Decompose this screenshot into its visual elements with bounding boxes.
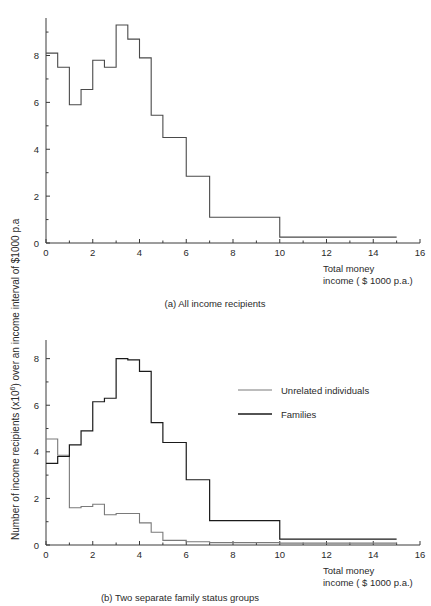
x-tick-label: 12: [321, 247, 332, 258]
x-tick-label: 4: [137, 549, 142, 560]
panel-b-xaxis-title-line1: Total money: [323, 565, 374, 576]
y-tick-label: 0: [34, 238, 39, 249]
panel-b-caption: (b) Two separate family status groups: [101, 592, 259, 603]
panel-b-x-ticks: 0246810121416: [43, 541, 425, 560]
x-tick-label: 4: [137, 247, 142, 258]
figure-container: 0246810121416 02468 Total money income (…: [0, 0, 431, 606]
svg-text:Number of income recipients (x: Number of income recipients (x106) over …: [9, 218, 21, 540]
y-tick-label: 6: [34, 97, 39, 108]
legend-label-families: Families: [281, 409, 317, 420]
panel-a-y-ticks: 02468: [34, 32, 50, 248]
x-tick-label: 14: [368, 247, 379, 258]
panel-a-axes: [46, 18, 420, 243]
panel-a-chart: 0246810121416 02468 Total money income (…: [0, 0, 431, 320]
y-axis-label-part1: Number of income recipients (x10: [10, 390, 21, 540]
x-tick-label: 8: [230, 247, 235, 258]
x-tick-label: 2: [90, 247, 95, 258]
panel-a-caption: (a) All income recipients: [165, 298, 266, 309]
panel-a-xaxis-title-line1: Total money: [323, 263, 374, 274]
y-tick-label: 4: [34, 144, 39, 155]
x-tick-label: 16: [415, 247, 426, 258]
panel-b-y-ticks: 02468: [34, 353, 50, 550]
shared-y-axis-label: Number of income recipients (x106) over …: [2, 0, 28, 606]
y-tick-label: 8: [34, 50, 39, 61]
panel-b-legend: Unrelated individuals Families: [238, 385, 369, 420]
x-tick-label: 0: [43, 549, 48, 560]
y-tick-label: 0: [34, 540, 39, 551]
y-axis-label-part2: ) over an income interval of $1000 p.a: [10, 218, 21, 386]
x-tick-label: 16: [415, 549, 426, 560]
legend-label-unrelated-individuals: Unrelated individuals: [281, 385, 369, 396]
y-tick-label: 8: [34, 353, 39, 364]
panel-a-step-line: [46, 25, 397, 237]
x-tick-label: 12: [321, 549, 332, 560]
panel-a-xaxis-title-line2: income ( $ 1000 p.a.): [323, 275, 413, 286]
panel-b-xaxis-title-line2: income ( $ 1000 p.a.): [323, 577, 413, 588]
panel-b-series-unrelated-individuals: [46, 439, 397, 543]
panel-b-chart: 0246810121416 02468 Unrelated individual…: [0, 320, 431, 606]
x-tick-label: 8: [230, 549, 235, 560]
panel-a-x-ticks: 0246810121416: [43, 239, 425, 258]
panel-b-axes: [46, 340, 420, 545]
x-tick-label: 0: [43, 247, 48, 258]
y-tick-label: 4: [34, 446, 39, 457]
x-tick-label: 6: [184, 247, 189, 258]
y-tick-label: 6: [34, 400, 39, 411]
x-tick-label: 2: [90, 549, 95, 560]
x-tick-label: 6: [184, 549, 189, 560]
x-tick-label: 14: [368, 549, 379, 560]
y-tick-label: 2: [34, 493, 39, 504]
x-tick-label: 10: [274, 549, 285, 560]
x-tick-label: 10: [274, 247, 285, 258]
y-tick-label: 2: [34, 191, 39, 202]
